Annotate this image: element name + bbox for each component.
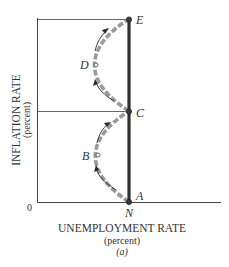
- adjustment-path-lower: [95, 111, 129, 202]
- y-axis-unit: (percent): [21, 102, 33, 138]
- arrow-lower-left: [94, 165, 116, 190]
- point-a: [126, 199, 131, 204]
- label-a: A: [135, 189, 144, 203]
- point-e: [126, 17, 131, 22]
- adjustment-path-upper: [95, 19, 130, 111]
- x-axis-title: UNEMPLOYMENT RATE: [58, 222, 186, 234]
- label-b: B: [82, 149, 90, 163]
- origin-label: 0: [27, 202, 32, 213]
- label-e: E: [135, 13, 144, 27]
- point-c: [126, 109, 131, 114]
- point-b: [96, 153, 100, 157]
- panel-label: (a): [116, 246, 128, 258]
- natural-rate-label: N: [124, 206, 134, 220]
- phillips-curve-diagram: E C A D B 0 N UNEMPLOYMENT RATE (percent…: [0, 0, 229, 267]
- label-d: D: [79, 58, 89, 72]
- label-c: C: [136, 106, 145, 120]
- arrow-upper-upleft: [95, 28, 109, 51]
- point-d: [94, 63, 98, 67]
